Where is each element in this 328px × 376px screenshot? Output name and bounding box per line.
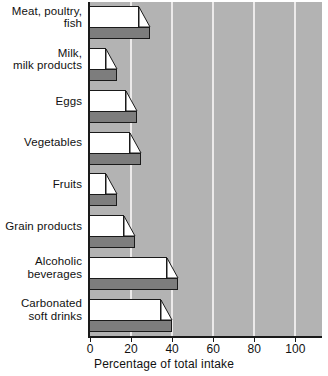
bar-meat-poultry-fish (90, 6, 150, 39)
bar-bevel (105, 173, 118, 196)
bar-chart: Meat, poultry, fish Milk, milk products … (0, 0, 328, 376)
plot-inner (90, 2, 322, 336)
gridline-60 (212, 2, 214, 336)
bar-front-face (90, 132, 130, 154)
category-label-meat-poultry-fish: Meat, poultry, fish (0, 5, 82, 30)
y-axis-category-labels: Meat, poultry, fish Milk, milk products … (0, 0, 86, 336)
bar-vegetables (90, 132, 141, 165)
category-label-milk-milk-products: Milk, milk products (0, 47, 82, 72)
x-tick-label-60: 60 (206, 342, 219, 356)
bar-front-face (90, 90, 126, 112)
bar-carbonated-soft-drinks (90, 299, 172, 332)
bar-depth-face (90, 278, 178, 290)
bar-grain-products (90, 215, 135, 248)
bar-bevel (129, 132, 142, 155)
x-tick-label-80: 80 (248, 342, 261, 356)
bar-eggs (90, 90, 137, 123)
gridline-80 (253, 2, 255, 336)
bar-bevel (138, 6, 151, 29)
x-axis-ticks: 020406080100 (0, 338, 328, 356)
category-label-alcoholic-beverages: Alcoholic beverages (0, 255, 82, 280)
bar-front-face (90, 215, 124, 237)
bar-milk-milk-products (90, 48, 117, 81)
bar-front-face (90, 6, 139, 28)
gridline-100 (294, 2, 296, 336)
bar-bevel (105, 48, 118, 71)
bar-bevel (166, 257, 179, 280)
category-label-eggs: Eggs (0, 95, 82, 108)
plot-area (90, 2, 322, 336)
x-axis-title: Percentage of total intake (0, 357, 328, 371)
y-axis-line (88, 2, 90, 338)
category-label-fruits: Fruits (0, 178, 82, 191)
category-label-vegetables: Vegetables (0, 136, 82, 149)
bar-bevel (125, 90, 138, 113)
x-tick-label-40: 40 (165, 342, 178, 356)
x-tick-label-0: 0 (87, 342, 94, 356)
category-label-grain-products: Grain products (0, 220, 82, 233)
bar-front-face (90, 173, 106, 195)
bar-bevel (160, 299, 173, 322)
bar-front-face (90, 257, 167, 279)
bar-fruits (90, 173, 117, 206)
x-tick-label-100: 100 (285, 342, 305, 356)
category-label-carbonated-soft-drinks: Carbonated soft drinks (0, 297, 82, 322)
bar-front-face (90, 48, 106, 70)
bar-bevel (123, 215, 136, 238)
bar-alcoholic-beverages (90, 257, 178, 290)
bar-front-face (90, 299, 161, 321)
x-tick-label-20: 20 (124, 342, 137, 356)
